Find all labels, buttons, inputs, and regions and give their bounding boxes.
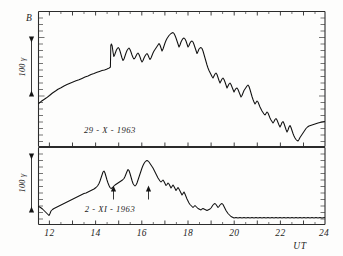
xtick-label-14: 14	[91, 228, 101, 238]
xtick-label-12: 12	[44, 228, 54, 238]
plot-canvas: B 100 γ 100 γ 29 - X - 1963 2 - XI - 196…	[0, 0, 343, 256]
upper-scale-bar	[29, 37, 34, 97]
xtick-label-20: 20	[229, 228, 239, 238]
lower-panel-date-annotation: 2 - XI - 1963	[85, 204, 135, 214]
panel-divider-ticks	[49, 143, 303, 147]
trace-upper-29-X-1963	[39, 33, 325, 142]
xtick-label-24: 24	[319, 228, 329, 238]
arrow-marker-2	[146, 186, 151, 200]
lower-right-axis-ticks	[321, 154, 326, 219]
upper-left-axis-ticks	[39, 18, 45, 142]
upper-scale-value-label: 100 γ	[18, 57, 27, 76]
xtick-label-16: 16	[137, 228, 147, 238]
lower-scale-bar	[29, 154, 34, 213]
xtick-label-22: 22	[275, 228, 285, 238]
x-axis-label-ut: UT	[293, 241, 306, 251]
upper-panel-date-annotation: 29 - X - 1963	[84, 125, 136, 135]
lower-panel-frame	[39, 148, 326, 225]
y-axis-quantity-label: B	[26, 13, 32, 23]
upper-top-axis-ticks	[49, 12, 315, 16]
lower-bottom-axis-ticks	[49, 221, 315, 225]
trace-lower-2-XI-1963	[39, 161, 325, 219]
lower-scale-value-label: 100 γ	[18, 173, 27, 192]
magnetogram-figure: B 100 γ 100 γ 29 - X - 1963 2 - XI - 196…	[0, 0, 343, 256]
xtick-label-18: 18	[183, 228, 193, 238]
